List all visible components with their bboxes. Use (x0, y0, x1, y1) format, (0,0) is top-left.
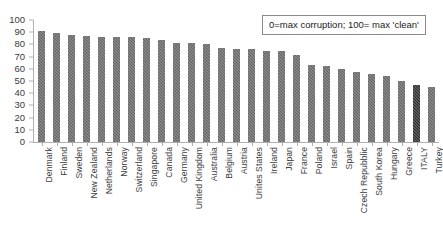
y-axis-tick-labels: 0102030405060708090100 (0, 20, 31, 143)
x-axis-tick-mark (417, 143, 418, 146)
bar (53, 33, 60, 142)
x-axis-tick-mark (177, 143, 178, 146)
x-axis-category-label: Ireland (270, 147, 279, 174)
bar (383, 76, 390, 142)
bar-chart-figure: 0102030405060708090100 DenmarkFinlandSwe… (0, 0, 443, 231)
bar (353, 72, 360, 142)
x-axis-tick-mark (132, 143, 133, 146)
x-axis-tick-mark (162, 143, 163, 146)
bar (218, 48, 225, 142)
x-axis-category-label: Finland (60, 147, 69, 176)
bar (338, 69, 345, 142)
bar (128, 37, 135, 142)
y-axis-tick-label: 0 (20, 137, 25, 147)
x-axis-category-label: Unites States (255, 147, 264, 199)
x-axis-tick-mark (72, 143, 73, 146)
bar (368, 74, 375, 142)
bar (68, 35, 75, 142)
bar (263, 51, 270, 143)
x-axis-category-labels: DenmarkFinlandSwedenNew ZealandNetherlan… (34, 147, 439, 231)
x-axis-tick-mark (282, 143, 283, 146)
x-axis-tick-mark (57, 143, 58, 146)
x-axis-tick-mark (372, 143, 373, 146)
x-axis-tick-mark (207, 143, 208, 146)
x-axis-category-label: Hungary (390, 147, 399, 180)
bar (323, 66, 330, 142)
x-axis-category-label: Spain (345, 147, 354, 169)
bar (308, 65, 315, 142)
bar (113, 37, 120, 142)
y-axis-tick-label: 80 (14, 40, 25, 50)
x-axis-category-label: France (300, 147, 309, 174)
y-axis-tick-label: 100 (9, 15, 25, 25)
bar (428, 87, 435, 142)
x-axis-tick-mark (222, 143, 223, 146)
x-axis-tick-mark (357, 143, 358, 146)
x-axis-category-label: Netherlands (105, 147, 114, 194)
x-axis-category-label: United Kingdom (195, 147, 204, 209)
bar (98, 37, 105, 142)
x-axis-category-label: Switzerland (135, 147, 144, 192)
x-axis-category-label: Belgium (225, 147, 234, 179)
y-axis-tick-label: 70 (14, 52, 25, 62)
x-axis-category-label: Denmark (45, 147, 54, 182)
x-axis-category-label: New Zealand (90, 147, 99, 199)
bar (203, 44, 210, 142)
bar (143, 38, 150, 142)
x-axis-tick-mark (252, 143, 253, 146)
y-axis-tick-label: 90 (14, 27, 25, 37)
x-axis-tick-mark (297, 143, 298, 146)
x-axis-tick-mark (312, 143, 313, 146)
bar (413, 85, 420, 142)
x-axis-tick-mark (192, 143, 193, 146)
x-axis-tick-mark (267, 143, 268, 146)
x-axis-category-label: Germany (180, 147, 189, 183)
y-axis-tick-label: 20 (14, 113, 25, 123)
bar (173, 43, 180, 142)
y-axis-tick-label: 50 (14, 76, 25, 86)
x-axis-tick-mark (402, 143, 403, 146)
x-axis-category-label: South Korea (375, 147, 384, 196)
legend-annotation-box: 0=max corruption; 100= max 'clean' (262, 15, 426, 35)
x-axis-tick-mark (117, 143, 118, 146)
y-axis-tick-label: 30 (14, 101, 25, 111)
x-axis-category-label: Israel (330, 147, 339, 169)
bar (248, 49, 255, 142)
x-axis-tick-mark (102, 143, 103, 146)
x-axis-category-label: Singapore (150, 147, 159, 187)
bar (293, 55, 300, 142)
x-axis-tick-mark (42, 143, 43, 146)
y-axis-tick-label: 40 (14, 88, 25, 98)
y-axis-tick-label: 60 (14, 64, 25, 74)
x-axis-category-label: Norway (120, 147, 129, 177)
x-axis-category-label: Greece (405, 147, 414, 176)
bar (38, 31, 45, 142)
bar (188, 43, 195, 142)
x-axis-tick-mark (342, 143, 343, 146)
x-axis-category-label: Japan (285, 147, 294, 171)
x-axis-category-label: Australia (210, 147, 219, 181)
x-axis-category-label: Sweden (75, 147, 84, 179)
x-axis-tick-mark (147, 143, 148, 146)
x-axis-tick-mark (237, 143, 238, 146)
x-axis-category-label: Poland (315, 147, 324, 174)
x-axis-category-label: Turkey (435, 147, 443, 173)
x-axis-tick-mark (432, 143, 433, 146)
x-axis-category-label: Austria (240, 147, 249, 174)
x-axis-tick-mark (387, 143, 388, 146)
bar (278, 51, 285, 143)
x-axis-category-label: Czech Repubblic (360, 147, 369, 213)
bar (158, 40, 165, 142)
x-axis-tick-mark (327, 143, 328, 146)
y-axis-tick-label: 10 (14, 125, 25, 135)
bar (233, 49, 240, 142)
bar (398, 81, 405, 142)
bar-series (34, 20, 439, 142)
x-axis-tick-mark (87, 143, 88, 146)
x-axis-category-label: ITALY (420, 147, 429, 170)
bar (83, 36, 90, 142)
x-axis-category-label: Canada (165, 147, 174, 178)
